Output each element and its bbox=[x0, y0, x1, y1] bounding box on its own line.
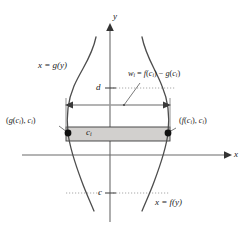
figure-graphics bbox=[0, 0, 249, 231]
right-curve-path bbox=[142, 37, 169, 211]
width-label-leader-line bbox=[124, 83, 140, 105]
rpl-close: ) bbox=[204, 116, 207, 125]
x-axis-label: x bbox=[234, 150, 238, 159]
lpl-close: ) bbox=[33, 116, 36, 125]
y-axis-arrowhead bbox=[106, 23, 114, 31]
tick-label-ci: ci bbox=[86, 128, 92, 137]
x-axis-arrowhead bbox=[224, 151, 232, 159]
right-point-label: (f(ci), ci) bbox=[179, 117, 207, 126]
left-curve-label: x = g(y) bbox=[38, 61, 67, 70]
left-curve-path bbox=[67, 37, 96, 211]
width-annotation-label: wi = f(ci) − g(ci) bbox=[128, 70, 180, 79]
width-label-leader-dot bbox=[123, 104, 125, 106]
wi-g-arg-close: ) bbox=[177, 69, 180, 78]
right-intersection-dot bbox=[165, 130, 172, 137]
left-intersection-dot bbox=[65, 130, 72, 137]
left-point-label: (g(ci), ci) bbox=[6, 117, 36, 126]
tick-label-d: d bbox=[96, 83, 101, 92]
wi-equals: = bbox=[135, 69, 144, 78]
figure-canvas: y x x = g(y) x = f(y) d c ci (g(ci), ci)… bbox=[0, 0, 249, 231]
representative-rectangle bbox=[66, 127, 170, 141]
right-curve-label: x = f(y) bbox=[155, 198, 182, 207]
tick-label-c: c bbox=[98, 188, 102, 197]
y-axis-label: y bbox=[113, 12, 117, 21]
tick-label-ci-sub: i bbox=[90, 131, 92, 137]
